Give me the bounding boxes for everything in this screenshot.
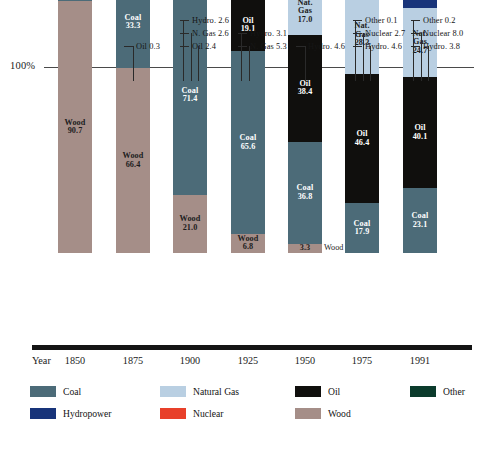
- plot-area: 100% Coal 9.3Wood 90.7Coal 33.3Wood 66.4…: [0, 0, 480, 360]
- callout-leader-line: [413, 20, 414, 81]
- callout-text: Hydro. 3.1: [250, 29, 287, 38]
- legend-item-nuclear[interactable]: Nuclear: [160, 408, 223, 419]
- segment-1950-natural-gas[interactable]: Nat. Gas 17.0: [288, 0, 322, 35]
- legend-item-hydropower[interactable]: Hydropower: [30, 408, 112, 419]
- callout-1975-2: Hydro. 4.6: [353, 42, 402, 51]
- segment-1950-coal[interactable]: Coal 36.8: [288, 142, 322, 244]
- legend-label: Hydropower: [63, 408, 112, 419]
- callout-leader-line: [241, 33, 242, 81]
- callout-leader-line: [191, 33, 192, 81]
- x-axis-year-labels: Year 1850187519001925195019751991: [0, 355, 480, 373]
- callout-text: Oil 0.3: [136, 42, 160, 51]
- legend-item-wood[interactable]: Wood: [295, 408, 351, 419]
- year-label-1900: 1900: [180, 355, 200, 366]
- segment-label: Coal 65.6: [240, 134, 257, 151]
- legend-swatch: [30, 408, 56, 419]
- callout-text: Oil 2.4: [192, 42, 216, 51]
- segment-1925-wood[interactable]: Wood 6.8: [231, 234, 265, 253]
- callout-1925-1: N. Gas 5.3: [238, 42, 287, 51]
- legend-swatch: [160, 386, 186, 397]
- chart-legend: CoalNatural GasOilOtherHydropowerNuclear…: [0, 386, 480, 436]
- callout-text: Nuclear 2.7: [365, 29, 405, 38]
- segment-label: Wood 66.4: [123, 152, 144, 169]
- bar-1950[interactable]: Nat. Gas 17.0Oil 38.4Coal 36.83.3Wood: [288, 0, 322, 253]
- callout-dash: [124, 46, 133, 47]
- legend-label: Wood: [328, 408, 351, 419]
- legend-item-coal[interactable]: Coal: [30, 386, 81, 397]
- segment-label: Wood 6.8: [238, 235, 259, 252]
- callout-leader-line: [428, 46, 429, 81]
- segment-label: Wood 90.7: [65, 119, 86, 136]
- callout-leader-line: [305, 46, 306, 81]
- bar-1850[interactable]: Coal 9.3Wood 90.7: [58, 0, 92, 253]
- segment-1875-wood[interactable]: Wood 66.4: [116, 68, 150, 253]
- legend-item-other[interactable]: Other: [410, 386, 465, 397]
- segment-label: Wood 21.0: [180, 215, 201, 232]
- callout-leader-line: [370, 46, 371, 81]
- legend-label: Nuclear: [193, 408, 223, 419]
- callout-1925-0: Hydro. 3.1: [238, 29, 287, 38]
- legend-swatch: [410, 386, 436, 397]
- callout-leader-line: [198, 46, 199, 81]
- year-label-1875: 1875: [123, 355, 143, 366]
- callout-1975-0: Other 0.1: [353, 16, 398, 25]
- segment-1991-coal[interactable]: Coal 23.1: [403, 188, 437, 252]
- legend-swatch: [295, 386, 321, 397]
- callout-dash: [238, 33, 247, 34]
- segment-label: Oil 46.4: [355, 130, 370, 147]
- callout-text: N. Gas 5.3: [250, 42, 287, 51]
- callout-dash: [180, 20, 189, 21]
- segment-1900-wood[interactable]: Wood 21.0: [173, 195, 207, 253]
- segment-label: Coal 23.1: [412, 212, 429, 229]
- legend-label: Other: [443, 386, 465, 397]
- callout-leader-line: [133, 46, 134, 81]
- segment-1975-oil[interactable]: Oil 46.4: [345, 74, 379, 203]
- callout-leader-line: [363, 33, 364, 81]
- segment-1975-coal[interactable]: Coal 17.9: [345, 203, 379, 253]
- year-tick-labels: 1850187519001925195019751991: [0, 355, 480, 373]
- segment-1991-hydropower[interactable]: [403, 0, 437, 8]
- callout-leader-line: [249, 46, 250, 81]
- callout-1900-0: Hydro. 2.6: [180, 16, 229, 25]
- callout-dash: [180, 46, 189, 47]
- segment-label: 3.3: [300, 244, 311, 252]
- segment-label: Coal 17.9: [354, 220, 371, 237]
- segment-label: Coal 36.8: [297, 184, 314, 201]
- bar-1875[interactable]: Coal 33.3Wood 66.4: [116, 0, 150, 253]
- segment-label: Coal 71.4: [182, 87, 199, 104]
- callout-text: Other 0.2: [423, 16, 456, 25]
- year-label-1975: 1975: [352, 355, 372, 366]
- segment-1991-oil[interactable]: Oil 40.1: [403, 77, 437, 188]
- segment-label: Coal 33.3: [125, 14, 142, 31]
- legend-label: Coal: [63, 386, 81, 397]
- segment-1925-coal[interactable]: Coal 65.6: [231, 51, 265, 233]
- callout-1950-0: Hydro. 4.6: [296, 42, 345, 51]
- legend-item-natural-gas[interactable]: Natural Gas: [160, 386, 239, 397]
- callout-dash: [180, 33, 189, 34]
- legend-label: Oil: [328, 386, 340, 397]
- x-axis-baseline: [32, 345, 472, 350]
- callout-text: Other 0.1: [365, 16, 398, 25]
- callout-1991-1: Nuclear 8.0: [411, 29, 463, 38]
- segment-1950-wood[interactable]: 3.3Wood: [288, 244, 322, 253]
- y-axis-tick-100: 100%: [10, 60, 35, 71]
- callout-leader-line: [355, 20, 356, 81]
- callout-leader-line: [183, 20, 184, 81]
- year-label-1991: 1991: [410, 355, 430, 366]
- energy-mix-stacked-bar-chart: 100% Coal 9.3Wood 90.7Coal 33.3Wood 66.4…: [0, 0, 480, 452]
- segment-label: Oil 40.1: [413, 124, 428, 141]
- segment-label: Nat. Gas 17.0: [297, 0, 312, 24]
- legend-swatch: [295, 408, 321, 419]
- year-label-1850: 1850: [65, 355, 85, 366]
- callout-dash: [238, 46, 247, 47]
- legend-item-oil[interactable]: Oil: [295, 386, 340, 397]
- year-label-1950: 1950: [295, 355, 315, 366]
- callout-text: Nuclear 8.0: [423, 29, 463, 38]
- segment-outside-label: Wood: [324, 244, 343, 252]
- legend-swatch: [30, 386, 56, 397]
- callout-1875-0: Oil 0.3: [124, 42, 160, 51]
- callout-1991-2: Hydro. 3.8: [411, 42, 460, 51]
- callout-leader-line: [421, 33, 422, 81]
- segment-1850-wood[interactable]: Wood 90.7: [58, 1, 92, 253]
- callout-1975-1: Nuclear 2.7: [353, 29, 405, 38]
